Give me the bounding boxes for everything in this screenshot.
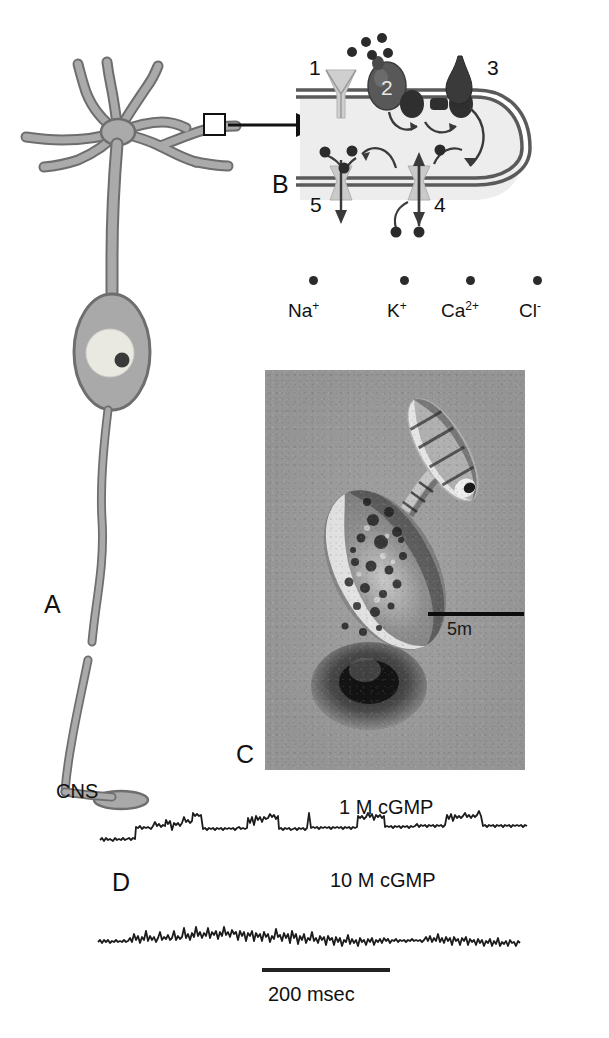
trace-2-recording xyxy=(0,0,609,1038)
time-scale-label: 200 msec xyxy=(268,984,355,1004)
time-scale-bar xyxy=(262,968,390,972)
scientific-figure: A CNS xyxy=(0,0,609,1038)
